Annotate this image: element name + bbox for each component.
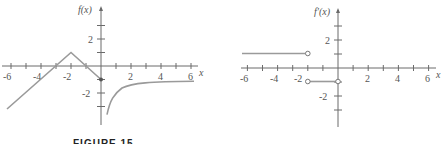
- x-tick-label: 6: [425, 73, 430, 84]
- y-tick-label: 2: [325, 35, 330, 46]
- x-tick-label: 2: [365, 73, 370, 84]
- x-tick-label: 6: [188, 71, 193, 82]
- f-asymptotic-curve: [107, 81, 194, 114]
- y-axis-arrow-icon: [336, 8, 340, 13]
- graph-f: f(x) x -6 -4 -2 2 4 6 2 -2: [2, 4, 204, 125]
- y-axis-label: f′(x): [314, 6, 331, 18]
- open-endpoint-icon: [306, 79, 311, 84]
- open-endpoint-icon: [306, 51, 311, 56]
- y-tick-label: -2: [319, 91, 327, 102]
- graph-f-prime: f′(x) x -6 -4 -2 2 4 6 2 -2: [240, 6, 441, 127]
- filled-endpoint-icon: [99, 78, 103, 82]
- figure-canvas: f(x) x -6 -4 -2 2 4 6 2 -2: [0, 0, 444, 144]
- x-tick-label: -4: [270, 73, 278, 84]
- x-tick-label: -2: [63, 71, 71, 82]
- figure-caption: FIGURE 15: [73, 138, 134, 144]
- y-axis-arrow-icon: [99, 6, 103, 11]
- y-axis-label: f(x): [78, 4, 93, 16]
- y-tick-label: 2: [88, 34, 93, 45]
- x-tick-label: -2: [294, 73, 302, 84]
- x-tick-label: -6: [240, 73, 248, 84]
- x-tick-label: 4: [395, 73, 400, 84]
- x-tick-label: -6: [3, 71, 11, 82]
- y-tick-label: -2: [82, 88, 90, 99]
- x-axis-label: x: [435, 69, 441, 80]
- open-endpoint-icon: [336, 79, 341, 84]
- x-tick-label: 4: [158, 71, 163, 82]
- f-piecewise-linear: [7, 53, 101, 110]
- x-tick-label: 2: [128, 71, 133, 82]
- x-axis-label: x: [198, 67, 204, 78]
